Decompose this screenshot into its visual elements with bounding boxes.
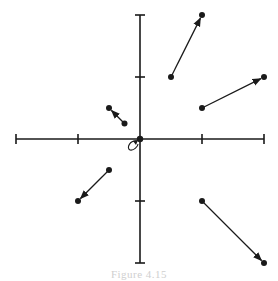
end-point [75,198,81,204]
vector-arrow [75,167,112,204]
end-point [106,105,112,111]
vector-diagram [0,0,278,281]
start-point [199,198,205,204]
start-point [168,74,174,80]
start-point [122,121,128,127]
origin-fixed-point [128,136,143,150]
start-point [199,105,205,111]
vector-arrow [199,198,267,266]
start-point [106,167,112,173]
end-point [199,12,205,18]
loop-arrow-icon [128,140,138,150]
vector-arrow [168,12,205,80]
vector-arrow [106,105,128,127]
figure-caption: Figure 4.15 [0,268,278,280]
end-point [261,260,267,266]
origin-dot [137,136,143,142]
vector-arrow [199,74,267,111]
end-point [261,74,267,80]
